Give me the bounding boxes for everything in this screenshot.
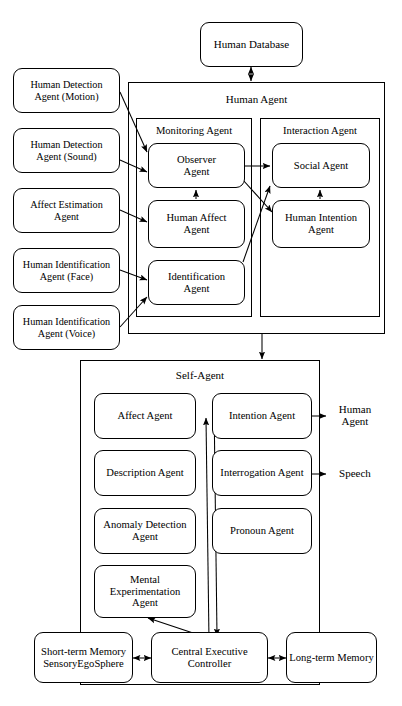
- node-long-term-memory-line1: Long-term Memory: [289, 652, 373, 664]
- node-human-affect-agent-line1: Human Affect: [166, 212, 226, 224]
- node-central-executive-controller-line2: Controller: [171, 658, 247, 670]
- node-short-term-memory-line2: SensoryEgoSphere: [41, 658, 126, 670]
- panel-human-agent-title: Human Agent: [129, 93, 384, 105]
- node-description-agent[interactable]: Description Agent: [94, 450, 196, 496]
- label-output-human-agent: Human Agent: [324, 403, 386, 428]
- node-mental-experimentation-agent-line3: Agent: [110, 597, 181, 609]
- node-human-affect-agent-line2: Agent: [166, 224, 226, 236]
- panel-monitoring-agent-title: Monitoring Agent: [137, 125, 251, 136]
- node-human-affect-agent[interactable]: Human Affect Agent: [148, 200, 245, 248]
- node-human-identification-agent-face-line2: Agent (Face): [23, 271, 110, 282]
- node-human-detection-agent-motion[interactable]: Human Detection Agent (Motion): [13, 68, 120, 113]
- node-human-database-label: Human Database: [214, 38, 289, 50]
- node-identification-agent-line2: Agent: [168, 283, 225, 295]
- node-observer-agent-line1: Observer: [177, 154, 216, 166]
- node-human-intention-agent-line2: Agent: [285, 224, 357, 236]
- node-anomaly-detection-agent-line2: Agent: [103, 531, 186, 543]
- node-human-identification-agent-voice[interactable]: Human Identification Agent (Voice): [13, 305, 120, 350]
- node-mental-experimentation-agent-line1: Mental: [110, 574, 181, 586]
- node-pronoun-agent-line1: Pronoun Agent: [230, 525, 294, 537]
- node-human-intention-agent-line1: Human Intention: [285, 212, 357, 224]
- node-affect-estimation-agent[interactable]: Affect Estimation Agent: [13, 188, 120, 233]
- node-human-detection-agent-sound-line2: Agent (Sound): [30, 151, 102, 162]
- node-observer-agent[interactable]: Observer Agent: [148, 143, 245, 188]
- node-pronoun-agent[interactable]: Pronoun Agent: [212, 508, 312, 554]
- node-anomaly-detection-agent-line1: Anomaly Detection: [103, 519, 186, 531]
- label-output-speech: Speech: [324, 467, 386, 479]
- node-human-detection-agent-sound[interactable]: Human Detection Agent (Sound): [13, 128, 120, 173]
- node-affect-estimation-agent-line1: Affect Estimation: [30, 199, 103, 210]
- node-short-term-memory-line1: Short-term Memory: [41, 646, 126, 658]
- node-interrogation-agent-line1: Interrogation Agent: [220, 467, 303, 479]
- node-human-database[interactable]: Human Database: [200, 22, 303, 67]
- architecture-diagram: Human Database Human Detection Agent (Mo…: [0, 0, 402, 706]
- node-mental-experimentation-agent-line2: Experimentation: [110, 586, 181, 598]
- node-identification-agent-line1: Identification: [168, 271, 225, 283]
- node-human-detection-agent-motion-line1: Human Detection: [30, 79, 102, 90]
- node-affect-agent[interactable]: Affect Agent: [94, 393, 196, 439]
- node-short-term-memory[interactable]: Short-term Memory SensoryEgoSphere: [34, 632, 133, 683]
- node-human-intention-agent[interactable]: Human Intention Agent: [272, 200, 370, 248]
- node-interrogation-agent[interactable]: Interrogation Agent: [212, 450, 312, 496]
- node-observer-agent-line2: Agent: [177, 166, 216, 178]
- node-description-agent-line1: Description Agent: [106, 467, 183, 479]
- node-human-detection-agent-motion-line2: Agent (Motion): [30, 91, 102, 102]
- label-output-human-agent-line1: Human: [324, 403, 386, 415]
- node-intention-agent-line1: Intention Agent: [229, 410, 295, 422]
- node-human-identification-agent-face[interactable]: Human Identification Agent (Face): [13, 248, 120, 293]
- node-central-executive-controller[interactable]: Central Executive Controller: [151, 632, 268, 683]
- node-human-identification-agent-voice-line2: Agent (Voice): [23, 328, 110, 339]
- node-central-executive-controller-line1: Central Executive: [171, 646, 247, 658]
- node-social-agent-line1: Social Agent: [294, 160, 348, 172]
- node-human-identification-agent-face-line1: Human Identification: [23, 259, 110, 270]
- panel-interaction-agent-title: Interaction Agent: [261, 125, 379, 136]
- label-output-speech-line1: Speech: [324, 467, 386, 479]
- label-output-human-agent-line2: Agent: [324, 415, 386, 427]
- node-human-detection-agent-sound-line1: Human Detection: [30, 139, 102, 150]
- node-identification-agent[interactable]: Identification Agent: [148, 260, 245, 305]
- node-affect-agent-line1: Affect Agent: [118, 410, 173, 422]
- node-intention-agent[interactable]: Intention Agent: [212, 393, 312, 439]
- node-human-identification-agent-voice-line1: Human Identification: [23, 316, 110, 327]
- panel-self-agent-title: Self-Agent: [81, 369, 319, 381]
- node-long-term-memory[interactable]: Long-term Memory: [286, 632, 377, 683]
- node-social-agent[interactable]: Social Agent: [272, 143, 370, 188]
- node-affect-estimation-agent-line2: Agent: [30, 211, 103, 222]
- node-mental-experimentation-agent[interactable]: Mental Experimentation Agent: [94, 565, 196, 618]
- node-anomaly-detection-agent[interactable]: Anomaly Detection Agent: [94, 508, 196, 554]
